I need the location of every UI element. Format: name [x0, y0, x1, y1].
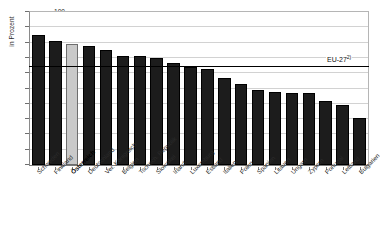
eu-reference-footnote-marker: 2) [347, 54, 351, 60]
bar-schweden [32, 35, 45, 165]
bar-zypern [303, 93, 316, 165]
bars-series [30, 12, 368, 165]
bar-portugal [319, 101, 332, 165]
bar-luxemburg [184, 67, 197, 165]
bar-finnland [49, 41, 62, 165]
bar-italien [218, 78, 231, 165]
bar-deutschland [83, 46, 96, 165]
bottom-caption-cropped [6, 220, 370, 227]
eu-reference-label: EU-272) [326, 55, 352, 63]
bar-ungarn [286, 93, 299, 165]
bar-tschech-republik [134, 56, 147, 165]
bar-sterreich [66, 44, 79, 165]
x-axis-labels: SchwedenFinnlandÖsterreichDeutschlandVer… [30, 167, 368, 223]
bar-polen [235, 84, 248, 165]
bar-spanien [252, 90, 265, 165]
bar-irland [167, 63, 180, 166]
eu-reference-label-text: EU-27 [327, 56, 347, 63]
eu-reference-line [29, 66, 369, 68]
y-axis-title: in Prozent [8, 2, 15, 62]
